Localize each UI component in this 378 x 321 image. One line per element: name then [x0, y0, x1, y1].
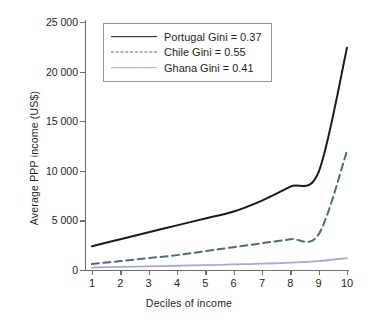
x-tick-label: 9 — [316, 277, 322, 289]
y-tick-label: 5 000 — [52, 214, 78, 226]
x-tick — [92, 270, 93, 275]
x-tick-label: 10 — [341, 277, 353, 289]
legend-swatch-icon — [111, 63, 157, 73]
legend-item-portugal: Portugal Gini = 0.37 — [111, 29, 262, 45]
x-tick-label: 8 — [287, 277, 293, 289]
x-tick-label: 4 — [174, 277, 180, 289]
legend: Portugal Gini = 0.37Chile Gini = 0.55Gha… — [103, 23, 272, 82]
legend-label: Ghana Gini = 0.41 — [164, 62, 254, 74]
legend-item-ghana: Ghana Gini = 0.41 — [111, 60, 262, 76]
x-tick — [262, 270, 263, 275]
x-tick — [234, 270, 235, 275]
x-tick — [120, 270, 121, 275]
x-tick — [149, 270, 150, 275]
x-tick-label: 7 — [259, 277, 265, 289]
legend-swatch-icon — [111, 47, 157, 57]
legend-swatch-icon — [111, 32, 157, 42]
x-tick-label: 2 — [117, 277, 123, 289]
y-tick-label: 0 — [72, 264, 78, 276]
x-tick-label: 1 — [89, 277, 95, 289]
legend-label: Chile Gini = 0.55 — [164, 46, 246, 58]
series-line-chile — [92, 151, 347, 264]
y-tick-label: 15 000 — [46, 115, 78, 127]
x-axis-title: Deciles of income — [0, 297, 378, 309]
y-tick — [80, 270, 85, 271]
y-axis-title: Average PPP income (US$) — [28, 78, 40, 238]
chart-container: Average PPP income (US$) Deciles of inco… — [0, 0, 378, 321]
legend-item-chile: Chile Gini = 0.55 — [111, 45, 262, 61]
x-tick-label: 6 — [231, 277, 237, 289]
y-tick-label: 25 000 — [46, 16, 78, 28]
x-tick — [290, 270, 291, 275]
x-tick — [177, 270, 178, 275]
x-tick — [205, 270, 206, 275]
y-tick-label: 10 000 — [46, 165, 78, 177]
x-tick-label: 5 — [202, 277, 208, 289]
x-tick-label: 3 — [146, 277, 152, 289]
x-tick — [319, 270, 320, 275]
plot-area: 05 00010 00015 00020 00025 000 123456789… — [85, 22, 347, 270]
x-tick — [347, 270, 348, 275]
legend-label: Portugal Gini = 0.37 — [164, 31, 262, 43]
y-tick-label: 20 000 — [46, 66, 78, 78]
